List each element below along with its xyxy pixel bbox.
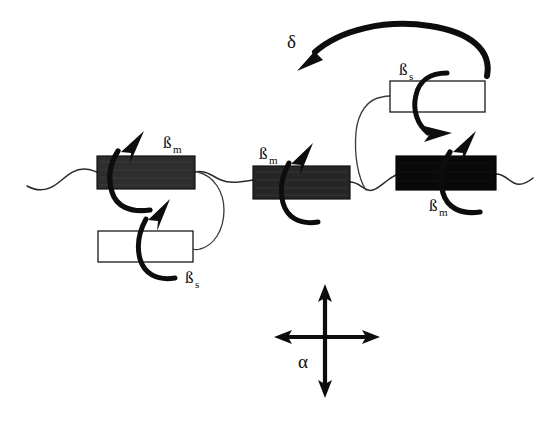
main-chain-mesogen-2 <box>253 143 350 223</box>
label-beta-m-3-base: ß <box>429 196 438 215</box>
delta-long-range-arc <box>297 24 488 76</box>
backbone-segment-right-tail <box>496 174 533 184</box>
label-beta-s-lower-base: ß <box>185 268 194 287</box>
label-beta-m-3-subscript: m <box>439 206 448 218</box>
label-delta: δ <box>287 31 296 52</box>
label-beta-s-lower-subscript: s <box>195 278 199 290</box>
label-beta-m-1-subscript: m <box>173 143 182 155</box>
backbone-segment-1-to-2 <box>195 172 253 183</box>
label-beta-m-2-subscript: m <box>269 154 278 166</box>
connector-to-upper-side-chain <box>355 96 390 190</box>
backbone-segment-left-tail <box>27 169 97 190</box>
label-beta-m-1-base: ß <box>163 133 172 152</box>
label-beta-s-lower: ß s <box>185 268 199 290</box>
alpha-reorientation-cross <box>283 293 371 389</box>
connector-to-lower-side-chain <box>193 172 224 250</box>
label-beta-m-2-base: ß <box>259 144 268 163</box>
side-chain-mesogen-upper <box>390 73 485 142</box>
backbone-segment-2-to-3 <box>350 175 396 190</box>
side-chain-block-upper-body <box>390 81 485 112</box>
label-beta-m-2: ß m <box>259 144 278 166</box>
side-chain-block-lower-body <box>98 231 193 262</box>
label-alpha: α <box>298 351 308 372</box>
relaxation-modes-diagram: ß m ß m ß m ß s ß s <box>0 0 545 423</box>
label-beta-s-upper: ß s <box>399 60 413 82</box>
label-beta-s-upper-base: ß <box>399 60 408 79</box>
label-beta-s-upper-subscript: s <box>409 70 413 82</box>
main-chain-mesogen-3 <box>396 131 496 213</box>
figure-canvas: ß m ß m ß m ß s ß s <box>0 0 545 423</box>
beta-s-lower-rotation-arrowhead <box>148 199 170 231</box>
label-beta-m-1: ß m <box>163 133 182 155</box>
